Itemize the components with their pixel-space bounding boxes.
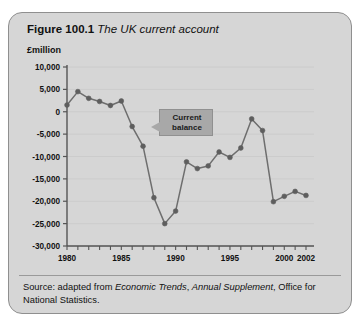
data-point <box>152 195 157 200</box>
data-point <box>141 144 146 149</box>
data-point <box>249 117 254 122</box>
data-point <box>304 193 309 198</box>
current-balance-callout: Current balance <box>159 109 213 136</box>
chart-plot-area: 10,0005,0000-5,000-10,000-15,000-20,000-… <box>9 13 353 315</box>
figure-card: Figure 100.1 The UK current account £mil… <box>8 12 352 314</box>
y-tick-label: 5,000 <box>40 85 61 94</box>
data-point <box>206 164 211 169</box>
data-point <box>282 194 287 199</box>
data-point <box>260 128 265 133</box>
data-point <box>65 103 70 108</box>
source-prefix: Source: adapted from <box>23 282 115 292</box>
data-point <box>195 166 200 171</box>
y-tick-label: 0 <box>55 108 60 117</box>
data-point <box>293 189 298 194</box>
data-point <box>108 103 113 108</box>
callout-tail-icon <box>151 122 160 132</box>
data-point <box>228 155 233 160</box>
y-tick-label: -20,000 <box>32 197 60 206</box>
line-chart-svg: 10,0005,0000-5,000-10,000-15,000-20,000-… <box>9 13 353 315</box>
data-point <box>130 124 135 129</box>
x-tick-label: 1985 <box>112 254 131 263</box>
callout-label: Current balance <box>160 113 214 133</box>
data-point <box>271 199 276 204</box>
y-tick-label: 10,000 <box>35 63 60 72</box>
source-supplement: Annual Supplement <box>192 282 273 292</box>
data-point <box>173 209 178 214</box>
data-point <box>75 89 80 94</box>
data-point <box>238 146 243 151</box>
y-tick-label: -5,000 <box>37 130 61 139</box>
x-tick-label: 2002 <box>297 254 316 263</box>
source-publication: Economic Trends <box>115 282 187 292</box>
source-divider <box>19 275 341 276</box>
callout-line-2: balance <box>172 123 202 132</box>
data-point <box>162 221 167 226</box>
data-point <box>119 99 124 104</box>
y-tick-label: -30,000 <box>32 242 60 251</box>
y-tick-label: -25,000 <box>32 220 60 229</box>
x-tick-label: 1990 <box>167 254 186 263</box>
y-tick-label: -15,000 <box>32 175 60 184</box>
source-note: Source: adapted from Economic Trends, An… <box>23 281 339 307</box>
data-point <box>86 96 91 101</box>
data-point <box>184 159 189 164</box>
x-tick-label: 1980 <box>58 254 77 263</box>
data-point <box>217 150 222 155</box>
y-tick-label: -10,000 <box>32 153 60 162</box>
data-point <box>97 99 102 104</box>
x-tick-label: 1995 <box>221 254 240 263</box>
x-tick-label: 2000 <box>275 254 294 263</box>
callout-line-1: Current <box>173 113 202 122</box>
